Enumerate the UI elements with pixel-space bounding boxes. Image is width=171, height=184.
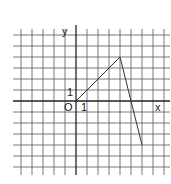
axes	[13, 25, 170, 175]
x-axis-label: x	[155, 101, 161, 113]
y-unit-label: 1	[67, 86, 73, 98]
grid-lines	[13, 29, 170, 175]
x-unit-label: 1	[81, 101, 87, 113]
origin-label: O	[64, 101, 73, 113]
y-axis-label: y	[62, 25, 68, 37]
coordinate-grid-figure: y x O 1 1	[0, 0, 171, 184]
